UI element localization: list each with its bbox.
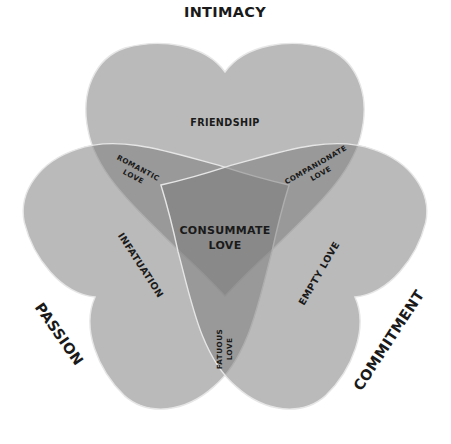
label-intimacy: INTIMACY [184, 4, 266, 20]
svg-text:FATUOUS: FATUOUS [215, 329, 224, 369]
svg-text:CONSUMMATE: CONSUMMATE [179, 224, 270, 237]
svg-text:LOVE: LOVE [209, 239, 242, 252]
svg-text:LOVE: LOVE [225, 338, 234, 361]
label-passion: PASSION [32, 300, 87, 369]
love-triangle-venn-diagram: INTIMACY PASSION COMMITMENT FRIENDSHIP I… [0, 0, 451, 444]
label-commitment: COMMITMENT [350, 287, 427, 393]
label-friendship: FRIENDSHIP [190, 117, 260, 128]
